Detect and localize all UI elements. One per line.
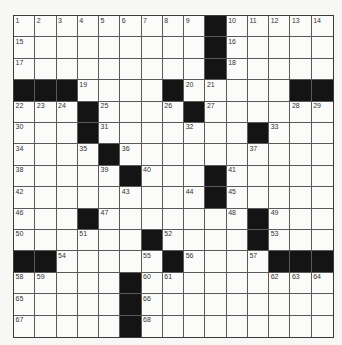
crossword-cell[interactable] <box>99 59 120 80</box>
crossword-cell[interactable] <box>248 102 269 123</box>
crossword-cell[interactable] <box>205 273 226 294</box>
crossword-cell[interactable] <box>312 294 333 315</box>
crossword-cell[interactable] <box>99 273 120 294</box>
crossword-cell[interactable] <box>57 166 78 187</box>
crossword-cell[interactable]: 59 <box>35 273 56 294</box>
crossword-cell[interactable] <box>163 37 184 58</box>
crossword-cell[interactable]: 36 <box>120 144 141 165</box>
crossword-cell[interactable] <box>269 37 290 58</box>
crossword-cell[interactable] <box>269 102 290 123</box>
crossword-cell[interactable] <box>57 123 78 144</box>
crossword-cell[interactable] <box>57 144 78 165</box>
crossword-cell[interactable]: 58 <box>14 273 35 294</box>
crossword-cell[interactable]: 48 <box>227 209 248 230</box>
crossword-cell[interactable] <box>163 123 184 144</box>
crossword-cell[interactable]: 22 <box>14 102 35 123</box>
crossword-cell[interactable]: 34 <box>14 144 35 165</box>
crossword-cell[interactable] <box>78 273 99 294</box>
crossword-cell[interactable] <box>312 144 333 165</box>
crossword-cell[interactable] <box>120 102 141 123</box>
crossword-cell[interactable] <box>163 187 184 208</box>
crossword-cell[interactable] <box>35 187 56 208</box>
crossword-cell[interactable] <box>142 37 163 58</box>
crossword-cell[interactable] <box>312 209 333 230</box>
crossword-cell[interactable] <box>163 316 184 337</box>
crossword-cell[interactable] <box>184 144 205 165</box>
crossword-cell[interactable] <box>99 230 120 251</box>
crossword-cell[interactable]: 31 <box>99 123 120 144</box>
crossword-cell[interactable] <box>312 37 333 58</box>
crossword-cell[interactable] <box>290 166 311 187</box>
crossword-cell[interactable]: 41 <box>227 166 248 187</box>
crossword-cell[interactable] <box>99 316 120 337</box>
crossword-cell[interactable] <box>35 37 56 58</box>
crossword-cell[interactable] <box>78 37 99 58</box>
crossword-cell[interactable]: 10 <box>227 16 248 37</box>
crossword-cell[interactable]: 52 <box>163 230 184 251</box>
crossword-cell[interactable]: 54 <box>57 251 78 272</box>
crossword-cell[interactable]: 38 <box>14 166 35 187</box>
crossword-cell[interactable]: 42 <box>14 187 35 208</box>
crossword-cell[interactable] <box>57 294 78 315</box>
crossword-cell[interactable] <box>312 123 333 144</box>
crossword-cell[interactable] <box>290 316 311 337</box>
crossword-cell[interactable]: 56 <box>184 251 205 272</box>
crossword-cell[interactable] <box>163 294 184 315</box>
crossword-cell[interactable] <box>227 316 248 337</box>
crossword-cell[interactable]: 35 <box>78 144 99 165</box>
crossword-cell[interactable] <box>227 230 248 251</box>
crossword-cell[interactable] <box>248 273 269 294</box>
crossword-cell[interactable]: 2 <box>35 16 56 37</box>
crossword-cell[interactable]: 33 <box>269 123 290 144</box>
crossword-cell[interactable]: 24 <box>57 102 78 123</box>
crossword-cell[interactable] <box>248 166 269 187</box>
crossword-cell[interactable] <box>99 251 120 272</box>
crossword-cell[interactable]: 7 <box>142 16 163 37</box>
crossword-cell[interactable]: 43 <box>120 187 141 208</box>
crossword-cell[interactable] <box>142 209 163 230</box>
crossword-cell[interactable]: 39 <box>99 166 120 187</box>
crossword-cell[interactable] <box>290 209 311 230</box>
crossword-cell[interactable] <box>99 294 120 315</box>
crossword-cell[interactable] <box>57 209 78 230</box>
crossword-cell[interactable] <box>227 123 248 144</box>
crossword-cell[interactable] <box>142 144 163 165</box>
crossword-cell[interactable] <box>290 187 311 208</box>
crossword-cell[interactable] <box>269 166 290 187</box>
crossword-cell[interactable]: 5 <box>99 16 120 37</box>
crossword-cell[interactable] <box>248 294 269 315</box>
crossword-cell[interactable] <box>163 144 184 165</box>
crossword-cell[interactable] <box>269 80 290 101</box>
crossword-cell[interactable]: 8 <box>163 16 184 37</box>
crossword-cell[interactable] <box>290 144 311 165</box>
crossword-cell[interactable] <box>163 166 184 187</box>
crossword-cell[interactable]: 50 <box>14 230 35 251</box>
crossword-cell[interactable] <box>312 230 333 251</box>
crossword-cell[interactable]: 6 <box>120 16 141 37</box>
crossword-cell[interactable] <box>35 59 56 80</box>
crossword-cell[interactable]: 47 <box>99 209 120 230</box>
crossword-cell[interactable] <box>57 187 78 208</box>
crossword-cell[interactable] <box>120 37 141 58</box>
crossword-cell[interactable] <box>227 251 248 272</box>
crossword-cell[interactable] <box>290 37 311 58</box>
crossword-cell[interactable] <box>290 294 311 315</box>
crossword-cell[interactable] <box>205 294 226 315</box>
crossword-cell[interactable] <box>248 316 269 337</box>
crossword-cell[interactable]: 51 <box>78 230 99 251</box>
crossword-cell[interactable] <box>269 59 290 80</box>
crossword-cell[interactable]: 49 <box>269 209 290 230</box>
crossword-cell[interactable]: 12 <box>269 16 290 37</box>
crossword-cell[interactable]: 3 <box>57 16 78 37</box>
crossword-cell[interactable]: 23 <box>35 102 56 123</box>
crossword-cell[interactable]: 28 <box>290 102 311 123</box>
crossword-cell[interactable] <box>248 37 269 58</box>
crossword-cell[interactable] <box>290 123 311 144</box>
crossword-cell[interactable] <box>290 59 311 80</box>
crossword-cell[interactable] <box>120 209 141 230</box>
crossword-cell[interactable] <box>205 316 226 337</box>
crossword-cell[interactable]: 4 <box>78 16 99 37</box>
crossword-cell[interactable] <box>35 209 56 230</box>
crossword-cell[interactable] <box>35 230 56 251</box>
crossword-cell[interactable]: 19 <box>78 80 99 101</box>
